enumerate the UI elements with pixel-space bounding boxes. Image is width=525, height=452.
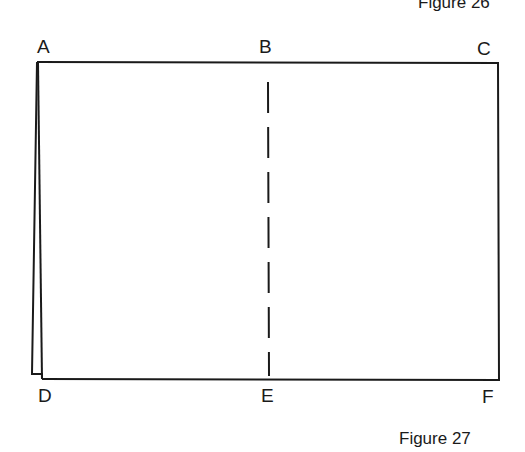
folded-sheet-diagram	[0, 0, 525, 452]
fold-inner-edge	[38, 63, 42, 379]
fold-line-b-e	[268, 82, 269, 376]
caption-figure-27: Figure 27	[399, 430, 471, 447]
